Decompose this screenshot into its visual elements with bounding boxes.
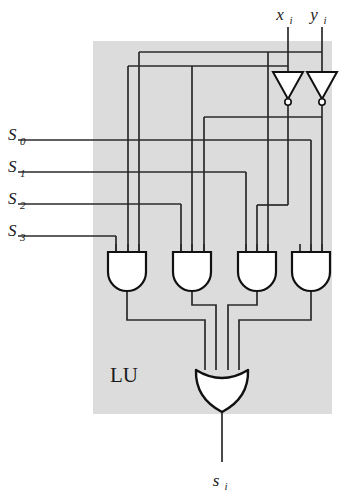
label-s0-name: S [8, 125, 17, 144]
and-gate-1 [108, 252, 146, 291]
not-gate-x-bubble [285, 99, 291, 105]
logic-unit-diagram: x i y i S 0 S 1 S 2 S 3 LU s i [0, 0, 352, 497]
label-yi-name: y [308, 5, 318, 24]
and-gate-4 [292, 252, 330, 291]
logic-unit-figure: x i y i S 0 S 1 S 2 S 3 LU s i [0, 0, 352, 497]
label-xi-subscript: i [289, 14, 292, 26]
and-gate-2 [173, 252, 211, 291]
label-s1-name: S [8, 157, 17, 176]
label-s2-name: S [8, 189, 17, 208]
label-lu-block: LU [110, 363, 138, 387]
and-gate-3 [238, 252, 276, 291]
label-s3-subscript: 3 [19, 231, 26, 243]
label-si-name: s [213, 471, 220, 490]
label-s3-name: S [8, 221, 17, 240]
label-s0-subscript: 0 [20, 135, 26, 147]
label-yi-subscript: i [323, 14, 326, 26]
label-s2-subscript: 2 [20, 199, 26, 211]
not-gate-y-bubble [319, 99, 325, 105]
label-xi-name: x [275, 5, 284, 24]
label-s1-subscript: 1 [20, 167, 26, 179]
label-si-subscript: i [224, 480, 227, 492]
